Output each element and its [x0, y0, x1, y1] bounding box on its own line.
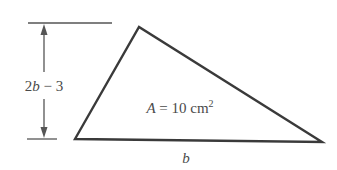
height-label: 2b − 3 — [25, 78, 63, 94]
base-label: b — [182, 150, 190, 166]
triangle-shape — [75, 27, 322, 142]
arrowhead-down-icon — [41, 127, 48, 138]
triangle-diagram: 2b − 3 A = 10 cm2 b — [0, 0, 337, 170]
arrowhead-up-icon — [41, 24, 48, 35]
area-label: A = 10 cm2 — [145, 98, 213, 116]
